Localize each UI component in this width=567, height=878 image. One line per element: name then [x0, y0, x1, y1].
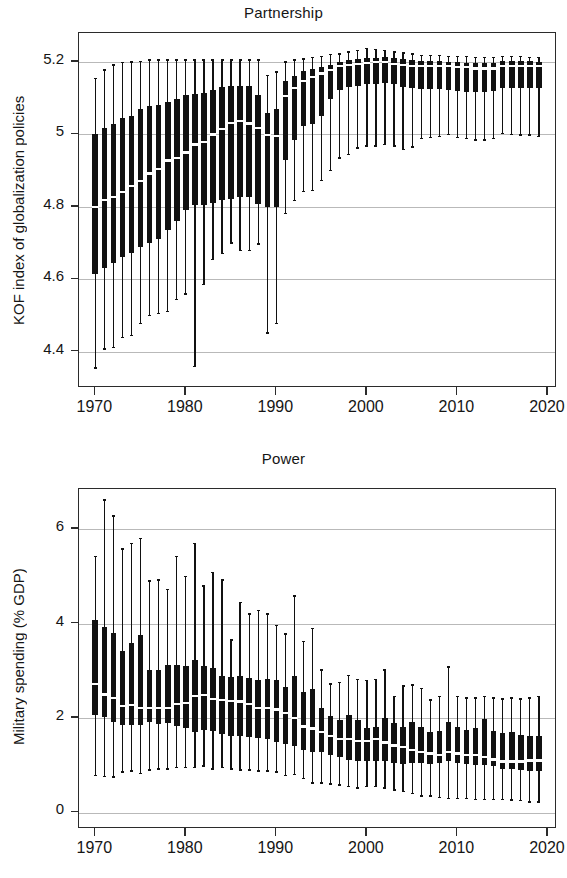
y-tick-mark-2 — [71, 716, 78, 717]
whisker-cap-lower-2010 — [456, 798, 459, 799]
x-tick-label-1970: 1970 — [54, 398, 134, 416]
panel-title-power: Power — [0, 450, 567, 467]
median-line-2006 — [418, 65, 425, 67]
whisker-cap-lower-2016 — [510, 134, 513, 135]
median-line-1999 — [354, 740, 361, 742]
median-line-1991 — [282, 712, 289, 714]
whisker-cap-lower-1989 — [266, 770, 269, 771]
whisker-cap-upper-2012 — [474, 57, 477, 58]
box-iqr-1975 — [138, 109, 144, 247]
whisker-cap-upper-2011 — [465, 56, 468, 57]
whisker-cap-lower-2007 — [429, 137, 432, 138]
whisker-cap-upper-1973 — [121, 62, 124, 63]
median-line-1973 — [119, 705, 126, 707]
box-iqr-1982 — [201, 93, 207, 205]
x-tick-label-2010: 2010 — [416, 839, 496, 857]
median-line-2013 — [481, 756, 488, 758]
median-line-1978 — [164, 159, 171, 161]
whisker-cap-lower-1980 — [184, 767, 187, 768]
x-tick-mark-1970 — [94, 387, 95, 395]
panel-title-partnership: Partnership — [0, 4, 567, 21]
y-tick-mark-5 — [71, 133, 78, 134]
whisker-cap-upper-1998 — [347, 51, 350, 52]
whisker-cap-lower-2017 — [519, 800, 522, 801]
whisker-cap-upper-2017 — [519, 698, 522, 699]
median-line-2007 — [427, 65, 434, 67]
median-line-2000 — [363, 740, 370, 742]
whisker-cap-upper-1995 — [320, 56, 323, 57]
median-line-1992 — [291, 87, 298, 89]
whisker-cap-upper-1987 — [248, 59, 251, 60]
box-iqr-1974 — [129, 643, 135, 725]
median-line-2016 — [508, 65, 515, 67]
whisker-cap-upper-1997 — [338, 53, 341, 54]
median-line-2017 — [517, 760, 524, 762]
median-line-2011 — [463, 66, 470, 68]
whisker-cap-lower-2007 — [429, 795, 432, 796]
median-line-2004 — [400, 64, 407, 66]
box-iqr-2010 — [455, 727, 461, 763]
whisker-cap-lower-1999 — [356, 147, 359, 148]
median-line-2018 — [526, 759, 533, 761]
whisker-cap-upper-2018 — [528, 697, 531, 698]
whisker-cap-upper-1976 — [148, 580, 151, 581]
box-iqr-1986 — [237, 86, 243, 197]
whisker-cap-lower-1990 — [275, 771, 278, 772]
box-iqr-1991 — [283, 81, 289, 160]
box-iqr-2018 — [527, 736, 533, 771]
box-iqr-2002 — [382, 718, 388, 761]
whisker-cap-lower-1982 — [202, 765, 205, 766]
median-line-1990 — [273, 135, 280, 137]
x-tick-mark-1980 — [184, 387, 185, 395]
box-iqr-1992 — [292, 676, 298, 746]
whisker-cap-upper-1995 — [320, 669, 323, 670]
median-line-1981 — [191, 143, 198, 145]
median-line-1977 — [155, 168, 162, 170]
whisker-cap-lower-1983 — [211, 259, 214, 260]
x-tick-label-1990: 1990 — [235, 398, 315, 416]
whisker-cap-lower-1979 — [175, 299, 178, 300]
whisker-cap-upper-1989 — [266, 613, 269, 614]
median-line-1974 — [128, 704, 135, 706]
whisker-cap-upper-1985 — [230, 59, 233, 60]
median-line-2002 — [382, 741, 389, 743]
whisker-cap-lower-1970 — [94, 367, 97, 368]
box-iqr-1995 — [319, 708, 325, 752]
median-line-1994 — [309, 727, 316, 729]
y-tick-label-2: 2 — [20, 706, 64, 723]
whisker-cap-upper-2004 — [402, 685, 405, 686]
whisker-cap-upper-2003 — [393, 51, 396, 52]
box-iqr-1987 — [246, 678, 252, 737]
whisker-cap-lower-2006 — [420, 138, 423, 139]
whisker-cap-upper-1975 — [139, 538, 142, 539]
median-line-1996 — [327, 69, 334, 71]
box-iqr-1971 — [102, 128, 108, 268]
median-line-1986 — [237, 700, 244, 702]
whisker-cap-upper-1989 — [266, 75, 269, 76]
gridline-y-4.4 — [79, 352, 555, 353]
y-tick-mark-4.8 — [71, 205, 78, 206]
median-line-2006 — [418, 751, 425, 753]
x-tick-label-2020: 2020 — [507, 398, 567, 416]
box-iqr-2003 — [391, 723, 397, 763]
whisker-cap-upper-1984 — [221, 579, 224, 580]
box-iqr-1985 — [228, 677, 234, 736]
whisker-cap-upper-2000 — [365, 680, 368, 681]
x-tick-label-2010: 2010 — [416, 398, 496, 416]
y-tick-mark-4 — [71, 622, 78, 623]
median-line-1989 — [264, 707, 271, 709]
box-iqr-1979 — [174, 99, 180, 221]
whisker-cap-lower-1971 — [103, 348, 106, 349]
whisker-cap-lower-2001 — [374, 145, 377, 146]
whisker-cap-lower-1984 — [221, 253, 224, 254]
box-iqr-1972 — [111, 124, 117, 263]
x-tick-mark-2000 — [365, 387, 366, 395]
panel-power: Power Military spending (% GDP) 02461970… — [0, 440, 567, 878]
median-line-1970 — [92, 206, 99, 208]
whisker-cap-lower-1990 — [275, 323, 278, 324]
x-tick-label-2020: 2020 — [507, 839, 567, 857]
whisker-cap-upper-2019 — [537, 57, 540, 58]
whisker-cap-lower-2003 — [393, 789, 396, 790]
x-tick-mark-2020 — [546, 387, 547, 395]
x-tick-mark-1980 — [184, 828, 185, 836]
